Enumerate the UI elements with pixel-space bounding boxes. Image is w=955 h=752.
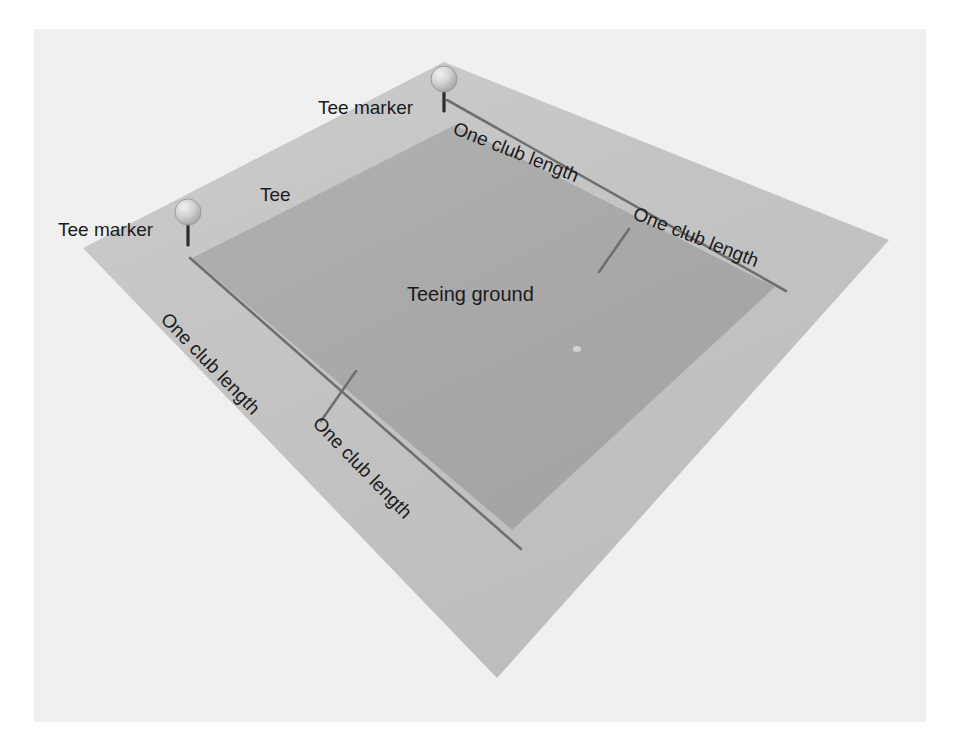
- golf-ball-top-icon: [431, 66, 457, 92]
- label-tee: Tee: [260, 184, 291, 206]
- label-tee-marker-left: Tee marker: [58, 219, 153, 241]
- illustration-canvas: Tee marker Tee marker Tee Teeing ground …: [34, 29, 926, 722]
- golf-ball-left-icon: [175, 199, 201, 225]
- label-tee-marker-top: Tee marker: [318, 97, 413, 119]
- label-teeing-ground: Teeing ground: [407, 283, 534, 306]
- ground-highlight-speck: [573, 346, 581, 352]
- diagram-page: Tee marker Tee marker Tee Teeing ground …: [0, 0, 955, 752]
